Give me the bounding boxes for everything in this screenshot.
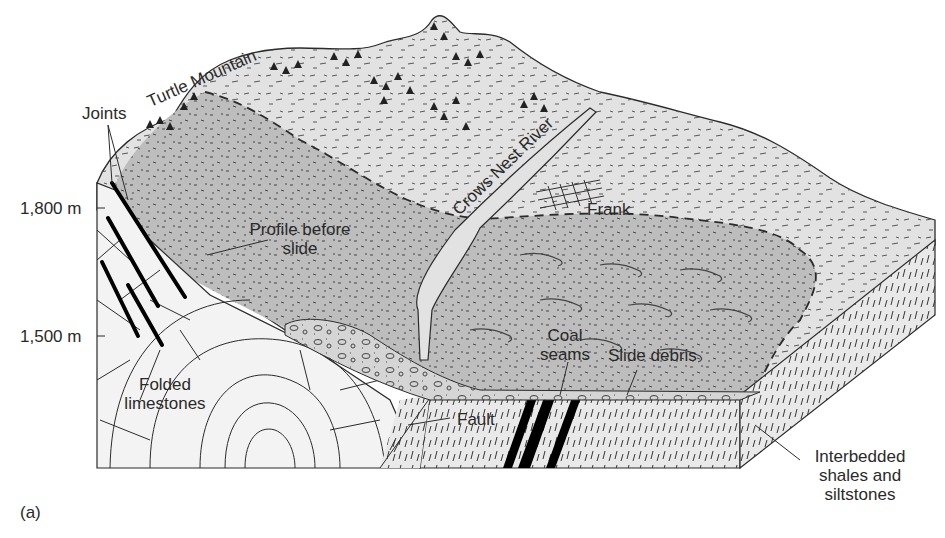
elevation-label-1500: 1,500 m <box>20 327 81 346</box>
label-fault: Fault <box>457 410 495 429</box>
label-folded-limestones: Folded limestones <box>115 375 215 413</box>
label-joints: Joints <box>82 104 126 123</box>
folded-line-1: Folded <box>115 375 215 394</box>
profile-line-2: slide <box>240 239 360 258</box>
interbedded-line-1: Interbedded <box>800 447 920 466</box>
label-frank: Frank <box>587 200 630 219</box>
profile-line-1: Profile before <box>240 220 360 239</box>
interbedded-line-3: siltstones <box>800 485 920 504</box>
folded-line-2: limestones <box>115 394 215 413</box>
label-interbedded-shales: Interbedded shales and siltstones <box>800 447 920 504</box>
label-profile-before-slide: Profile before slide <box>240 220 360 258</box>
elevation-label-1800: 1,800 m <box>20 199 81 218</box>
label-slide-debris: Slide debris <box>608 346 697 365</box>
coal-line-1: Coal <box>530 326 600 345</box>
coal-line-2: seams <box>530 345 600 364</box>
interbedded-line-2: shales and <box>800 466 920 485</box>
label-coal-seams: Coal seams <box>530 326 600 364</box>
panel-label: (a) <box>20 503 41 522</box>
